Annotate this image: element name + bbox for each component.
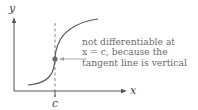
vertical-tangent-diagram: y x c not differentiable at x = c, becau… bbox=[0, 0, 198, 110]
annotation-text: not differentiable at x = c, because the… bbox=[82, 37, 187, 68]
x-axis-label: x bbox=[130, 85, 136, 96]
c-tick-label: c bbox=[52, 98, 58, 109]
arrow-left-icon bbox=[59, 57, 64, 61]
annotation-line-3: tangent line is vertical bbox=[82, 58, 187, 68]
point-at-c bbox=[52, 56, 57, 61]
y-axis-arrow-icon bbox=[12, 17, 16, 23]
x-axis-arrow-icon bbox=[121, 89, 127, 93]
y-axis bbox=[12, 17, 16, 91]
x-axis bbox=[14, 89, 127, 93]
y-axis-label: y bbox=[9, 3, 15, 14]
